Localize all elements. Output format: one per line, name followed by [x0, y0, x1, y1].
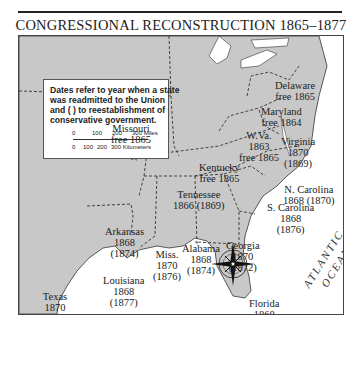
label-missouri: Missouri free 1865 — [111, 123, 151, 145]
label-south-carolina: S. Carolina 1868 (1876) — [267, 202, 314, 235]
map-frame: Dates refer to year when a state was rea… — [18, 35, 344, 315]
map-title: CONGRESSIONAL RECONSTRUCTION 1865–1877 — [0, 17, 362, 34]
legend-box: Dates refer to year when a state was rea… — [43, 79, 169, 159]
scale-miles-0: 0 — [72, 130, 75, 136]
label-florida: Florida 1868 (1877) — [249, 298, 279, 315]
title-rule — [18, 11, 342, 13]
label-arkansas: Arkansas 1868 (1874) — [105, 226, 144, 259]
label-louisiana: Louisiana 1868 (1877) — [103, 275, 144, 308]
label-georgia: Georgia 1870 (1872) — [226, 240, 260, 273]
label-maryland: Maryland free 1864 — [261, 106, 302, 128]
label-alabama: Alabama 1868 (1874) — [182, 243, 220, 276]
label-kentucky: Kentucky free 1865 — [199, 162, 240, 184]
scale-km-0: 0 — [72, 144, 75, 150]
legend-text: Dates refer to year when a state was rea… — [50, 85, 179, 125]
label-delaware: Delaware free 1865 — [275, 80, 315, 102]
scale-km-100: 100 — [83, 144, 93, 150]
label-mississippi: Miss. 1870 (1876) — [153, 249, 181, 282]
map-graphic — [19, 36, 343, 314]
label-virginia: Virginia 1870 (1869) — [281, 136, 315, 169]
label-tennessee: Tennessee 1866 (1869) — [173, 189, 225, 211]
label-texas: Texas 1870 (1873) — [41, 291, 69, 315]
scale-km-200: 200 — [97, 144, 107, 150]
scale-miles-100: 100 — [92, 130, 102, 136]
label-west-virginia: W.Va. 1863 free 1865 — [239, 130, 279, 163]
